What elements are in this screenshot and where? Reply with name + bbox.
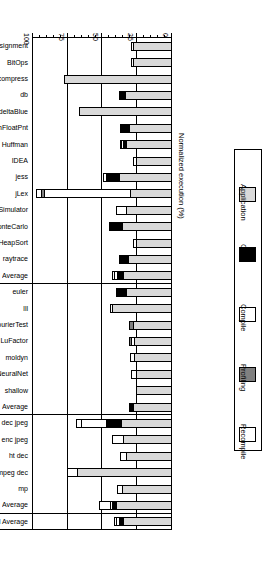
segment-application [133,321,172,330]
segment-recompile [113,271,116,280]
category-label: Average [2,272,28,280]
legend-item-recompile[interactable]: Recompile [235,384,261,444]
bar-row: NeuralNet [33,366,172,382]
tick-label-0: 0 [161,33,169,37]
bar-row: Average [33,268,172,284]
bar-NeuralNet [131,370,172,379]
bar-row: ht dec [33,448,172,464]
segment-compile [116,206,127,215]
bar-row: euler [33,284,172,300]
segment-compile [110,304,113,313]
category-label: jess [16,173,28,181]
bar-enc-jpeg [112,435,172,444]
bar-row: FourierTest [33,317,172,333]
segment-recompile [36,189,42,198]
bar-row: mp [33,481,172,497]
category-label: NeuralNet [0,370,28,378]
segment-recompile [114,517,117,526]
bar-row: lll [33,300,172,316]
bar-Average [129,403,172,412]
bar-Average [99,501,172,510]
segment-application [77,468,172,477]
bar-row: deltaBlue [33,104,172,120]
bar-row: Assignment [33,38,172,54]
legend-label: Application [239,184,248,221]
segment-profiling [129,403,131,412]
segment-application [126,140,172,149]
segment-gc [116,288,127,297]
segment-application [136,239,172,248]
category-label: compress [0,75,28,83]
bar-euler [116,288,172,297]
group-separator [0,513,172,514]
segment-gc [119,255,129,264]
bar-row: jLex [33,186,172,202]
bar-deltaBlue [79,107,172,116]
bar-row: enc jpeg [33,432,172,448]
segment-application [122,222,172,231]
bar-row: moldyn [33,350,172,366]
category-label: EmFloatPnt [0,124,28,132]
bar-row: monteCarlo [33,218,172,234]
legend-item-compile[interactable]: Compile [235,264,261,324]
category-label: Average [2,501,28,509]
category-label: dec jpeg [2,419,28,427]
category-label: LuFactor [0,337,28,345]
bar-row: mpeg dec [33,464,172,480]
segment-compile [131,58,134,67]
category-label: ht dec [9,452,28,460]
bar-jLex [36,189,172,198]
bar-mp [117,485,172,494]
segment-gc [106,173,120,182]
category-label: Average [2,403,28,411]
segment-compile [117,485,123,494]
bar-BitOps [131,58,172,67]
bar-All-Average [114,517,172,526]
group-separator [0,283,172,284]
segment-application [123,435,172,444]
segment-application [125,91,172,100]
segment-recompile [76,419,82,428]
segment-application [134,337,172,346]
segment-application [116,501,172,510]
segment-profiling [129,321,135,330]
bar-row: Average [33,399,172,415]
bar-Huffman [120,140,172,149]
segment-gc [106,419,121,428]
category-label: MipsSimulator [0,206,28,214]
segment-compile [131,42,134,51]
segment-application [122,485,172,494]
chart-legend: RecompileProfilingCompileGCApplication [234,149,262,451]
segment-recompile [99,501,112,510]
category-label: raytrace [3,255,28,263]
bar-lll [110,304,172,313]
group-separator [0,414,172,415]
bar-ht-dec [120,452,172,461]
segment-application [136,157,172,166]
segment-compile [112,435,125,444]
segment-application [121,419,172,428]
segment-application [123,271,172,280]
bar-raytrace [119,255,172,264]
segment-application [126,452,172,461]
bar-MipsSimulator [116,206,172,215]
category-label: All Average [0,518,28,526]
bar-row: EmFloatPnt [33,120,172,136]
segment-compile [44,189,132,198]
segment-compile [120,452,127,461]
segment-application [136,386,172,395]
category-label: monteCarlo [0,223,28,231]
category-label: mp [18,485,28,493]
bar-db [119,91,172,100]
legend-item-application[interactable]: Application [235,144,261,204]
segment-compile [133,157,137,166]
category-label: jLex [15,190,28,198]
bar-EmFloatPnt [120,124,172,133]
chart-figure: RecompileProfilingCompileGCApplication 0… [0,0,274,563]
bar-row: shallow [33,382,172,398]
bar-mpeg-dec [67,468,172,477]
segment-gc [119,91,126,100]
bar-row: NumHeapSort [33,235,172,251]
legend-item-profiling[interactable]: Profiling [235,324,261,384]
segment-compile [67,468,78,477]
